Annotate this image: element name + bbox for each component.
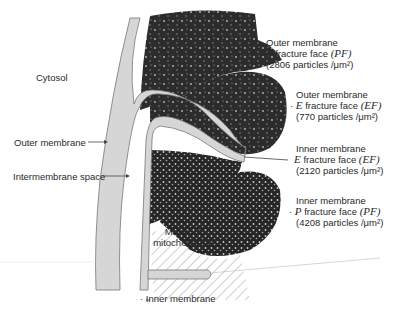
cytosol-label: Cytosol	[36, 72, 68, 83]
outer-pf-label: Outer membrane · P fracture face (PF) (2…	[260, 37, 353, 70]
outer-membrane-label: Outer membrane	[14, 137, 86, 148]
inner-pf-label: Inner membrane · P fracture face (PF) (4…	[289, 195, 383, 228]
matrix-label: Matrix of mitochondrion	[150, 226, 216, 248]
inner-membrane-label: · Inner membrane	[140, 293, 216, 304]
inner-ef-label: Inner membrane E fracture face (EF) (212…	[290, 143, 383, 176]
intermembrane-space-label: Intermembrane space	[13, 171, 105, 182]
inner-ef-leader	[244, 157, 288, 160]
outer-ef-label: Outer membrane · E fracture face (EF) (7…	[290, 89, 381, 122]
crista-fold	[148, 270, 211, 279]
